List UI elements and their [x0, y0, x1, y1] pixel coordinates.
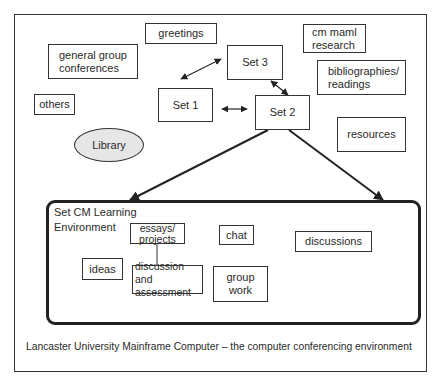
node-bibliographies-readings: bibliographies/ readings: [317, 60, 406, 95]
node-ideas: ideas: [82, 258, 123, 280]
edge-set3-set2: [271, 81, 288, 95]
node-chat: chat: [219, 225, 254, 245]
node-resources: resources: [337, 117, 406, 152]
node-general-group-conferences: general group conferences: [48, 44, 138, 79]
diagram-caption: Lancaster University Mainframe Computer …: [26, 341, 412, 352]
edge-set1-set3: [181, 59, 221, 79]
node-group-work: group work: [213, 266, 268, 302]
node-library: Library: [74, 128, 144, 162]
node-set2: Set 2: [255, 95, 310, 130]
node-others: others: [34, 94, 75, 115]
node-cm-maml-research: cm maml research: [303, 24, 366, 53]
node-set1: Set 1: [158, 88, 213, 122]
edge-set2-env-left: [130, 130, 268, 200]
learning-environment-title: Set CM Learning Environment: [54, 205, 137, 235]
node-essays-projects: essays/ projects: [130, 223, 185, 244]
node-greetings: greetings: [145, 23, 217, 44]
node-discussion-assessment: discussion and assessment: [132, 265, 203, 294]
node-set3: Set 3: [227, 45, 283, 80]
node-discussions: discussions: [295, 231, 372, 252]
